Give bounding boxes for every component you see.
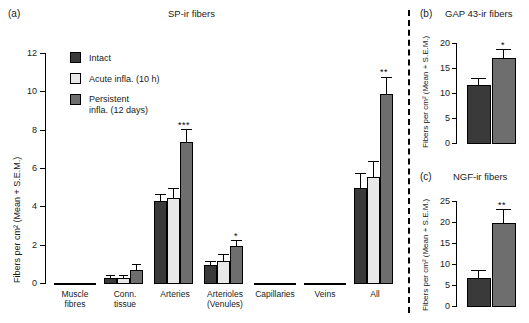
bar-arteries-intact xyxy=(154,201,167,284)
bar-all-acute xyxy=(367,177,380,285)
err-gap43-persistent xyxy=(503,50,504,58)
panel-a-yticklabel-3: 6 xyxy=(12,163,37,173)
err-all-intact xyxy=(360,174,361,188)
baseline-muscle-fibres xyxy=(54,283,96,285)
sig-ngf-persistent: ** xyxy=(498,201,506,209)
err-gap43-intact xyxy=(478,79,479,85)
err-arteries-intact xyxy=(160,195,161,202)
err-all-persistent xyxy=(386,78,387,94)
panel-c-yticklabel-5: 25 xyxy=(429,196,450,206)
sig-gap43-persistent: * xyxy=(501,41,505,49)
cat-line2: (Venules) xyxy=(207,299,243,309)
errcap-arteries-acute xyxy=(168,188,179,189)
baseline-capillaries xyxy=(254,283,296,285)
bar-group-arterioles: * xyxy=(202,53,248,284)
err-conn-tissue-intact xyxy=(110,276,111,278)
errcap-arterioles-intact xyxy=(205,261,216,262)
errcap-all-intact xyxy=(355,173,366,174)
figure-canvas: (a) SP-ir fibers Fibers per cm² (Mean + … xyxy=(0,0,529,323)
panel-a-ytick-5 xyxy=(40,91,45,92)
cat-label-capillaries: Capillaries xyxy=(250,289,300,299)
cat-label-conn-tissue: Conn. tissue xyxy=(102,289,148,309)
bar-group-ngf: ** xyxy=(463,201,523,307)
panel-c-yticklabel-3: 15 xyxy=(429,238,450,248)
panel-c-ytick-5 xyxy=(452,201,457,202)
panel-c-yaxis xyxy=(456,201,457,307)
panel-b-letter: (b) xyxy=(420,8,432,19)
panel-a-ylabel: Fibers per cm² (Mean + S.E.M.) xyxy=(12,157,22,283)
panel-c-yticklabel-4: 20 xyxy=(429,217,450,227)
panel-a-yticklabel-0: 0 xyxy=(12,278,37,288)
panel-a-ytick-2 xyxy=(40,206,45,207)
panel-a-yticklabel-4: 8 xyxy=(12,125,37,135)
bar-group-capillaries xyxy=(252,53,298,284)
err-arteries-persistent xyxy=(186,130,187,142)
panel-b-yticklabel-3: 15 xyxy=(429,63,450,73)
errcap-gap43-intact xyxy=(471,78,486,79)
panel-b-ytick-2 xyxy=(452,93,457,94)
cat-line1: All xyxy=(370,289,379,299)
panel-divider xyxy=(408,10,410,313)
panel-b-yticklabel-1: 5 xyxy=(429,113,450,123)
panel-b-yticklabel-4: 20 xyxy=(429,38,450,48)
panel-a-yticklabel-6: 12 xyxy=(12,48,37,58)
err-arterioles-intact xyxy=(210,262,211,265)
cat-label-muscle-fibres: Muscle fibres xyxy=(52,289,98,309)
cat-line1: Arteries xyxy=(160,289,189,299)
panel-c-yticklabel-1: 5 xyxy=(429,280,450,290)
errcap-conn-tissue-intact xyxy=(106,275,115,276)
cat-line1: Capillaries xyxy=(255,289,295,299)
panel-c-yticklabel-2: 10 xyxy=(429,259,450,269)
err-conn-tissue-persistent xyxy=(136,265,137,270)
errcap-arteries-intact xyxy=(155,194,166,195)
panel-a-ytick-4 xyxy=(40,130,45,131)
bar-conn-tissue-persistent xyxy=(130,270,143,284)
cat-line1: Arterioles xyxy=(207,289,243,299)
panel-c-letter: (c) xyxy=(420,171,432,182)
bar-arterioles-persistent xyxy=(230,246,243,284)
panel-a-ytick-0 xyxy=(40,283,45,284)
cat-line1: Veins xyxy=(315,289,336,299)
panel-b-title: GAP 43-ir fibers xyxy=(445,8,512,19)
panel-c-ytick-3 xyxy=(452,243,457,244)
panel-a-yticklabel-5: 10 xyxy=(12,86,37,96)
errcap-conn-tissue-acute xyxy=(119,275,128,276)
bar-ngf-intact xyxy=(467,278,491,307)
panel-b-ytick-3 xyxy=(452,68,457,69)
err-ngf-intact xyxy=(478,271,479,277)
sig-all-persistent: ** xyxy=(380,68,388,76)
errcap-all-acute xyxy=(368,161,379,162)
bar-all-persistent xyxy=(380,94,393,284)
cat-line1: Muscle xyxy=(62,289,89,299)
panel-c-ytick-0 xyxy=(452,306,457,307)
panel-b-ytick-0 xyxy=(452,143,457,144)
panel-c-ytick-2 xyxy=(452,264,457,265)
panel-a-ytick-3 xyxy=(40,168,45,169)
panel-c-ylabel: Fibers per cm² (Mean + S.E.M.) xyxy=(421,199,430,311)
err-arterioles-acute xyxy=(223,255,224,261)
bar-group-muscle-fibres xyxy=(52,53,98,284)
panel-a-ytick-6 xyxy=(40,53,45,54)
errcap-ngf-intact xyxy=(471,270,486,271)
err-conn-tissue-acute xyxy=(123,276,124,278)
bar-group-gap43: * xyxy=(463,43,523,144)
bar-arteries-acute xyxy=(167,198,180,284)
errcap-arterioles-acute xyxy=(218,254,229,255)
panel-b-ytick-1 xyxy=(452,118,457,119)
panel-a: Fibers per cm² (Mean + S.E.M.) 0 2 4 6 8… xyxy=(0,0,408,323)
err-ngf-persistent xyxy=(503,210,504,223)
baseline-veins xyxy=(304,283,346,285)
sig-arteries-persistent: *** xyxy=(178,121,190,129)
panel-a-yticklabel-2: 4 xyxy=(12,201,37,211)
panel-c-ytick-1 xyxy=(452,285,457,286)
panel-a-yticklabel-1: 2 xyxy=(12,240,37,250)
bar-gap43-persistent xyxy=(492,58,516,145)
sig-arterioles-persistent: * xyxy=(234,232,238,240)
bar-arterioles-intact xyxy=(204,265,217,284)
err-arteries-acute xyxy=(173,189,174,198)
panel-c-yticklabel-0: 0 xyxy=(429,301,450,311)
bar-group-conn-tissue xyxy=(102,53,148,284)
cat-label-arterioles: Arterioles (Venules) xyxy=(199,289,251,309)
cat-label-veins: Veins xyxy=(302,289,348,299)
panel-b: (b) GAP 43-ir fibers Fibers per cm² (Mea… xyxy=(415,0,529,160)
